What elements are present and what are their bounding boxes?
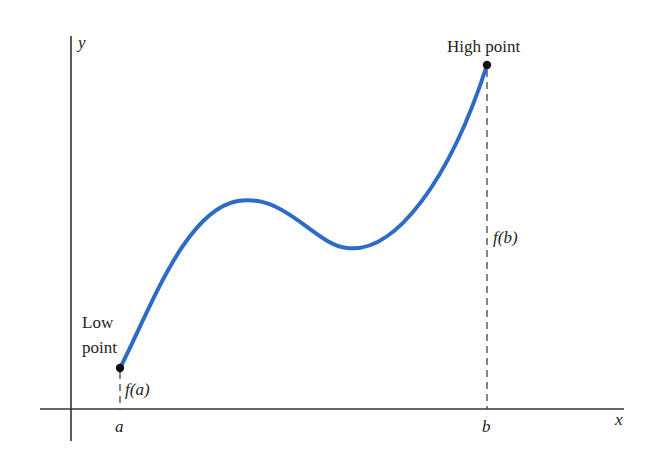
a-tick-label: a	[115, 417, 124, 436]
high-point-marker	[483, 61, 491, 69]
f-of-b-label: f(b)	[493, 228, 518, 247]
high-point-label: High point	[447, 37, 520, 56]
diagram-canvas: y x High point Low point f(a) f(b) a b	[0, 0, 655, 457]
b-tick-label: b	[482, 417, 491, 436]
y-axis-label: y	[76, 33, 86, 52]
low-point-marker	[116, 364, 124, 372]
x-axis-label: x	[614, 410, 623, 429]
low-point-label-line1: Low	[82, 313, 114, 332]
function-curve	[120, 65, 487, 368]
f-of-a-label: f(a)	[125, 380, 150, 399]
low-point-label-line2: point	[82, 338, 117, 357]
